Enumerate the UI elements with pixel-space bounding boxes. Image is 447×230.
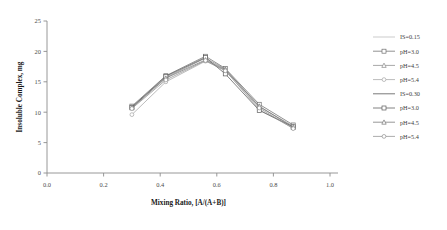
- legend-item-label: pH=5.4: [400, 133, 419, 140]
- axes: 0.00.20.40.60.81.00510152025Mixing Ratio…: [16, 17, 338, 207]
- legend-item-0[interactable]: IS=0.15: [373, 33, 420, 40]
- legend-item-label: pH=3.0: [400, 104, 419, 111]
- y-tick-label: 10: [35, 109, 41, 116]
- series-2: [130, 56, 296, 128]
- series-line: [132, 61, 293, 128]
- x-axis-title: Mixing Ratio, [A/(A+B)]: [151, 199, 226, 207]
- legend-item-4[interactable]: IS=0.30: [373, 90, 420, 97]
- marker-circle: [130, 113, 134, 117]
- x-tick-label: 0.6: [213, 181, 221, 188]
- marker-circle: [382, 135, 386, 139]
- legend-item-label: IS=0.30: [400, 90, 420, 97]
- y-tick-label: 5: [38, 139, 41, 146]
- x-tick-label: 0.4: [156, 181, 165, 188]
- marker-circle: [291, 127, 295, 131]
- marker-circle: [204, 59, 208, 63]
- legend-item-label: pH=3.0: [400, 48, 419, 55]
- y-axis-title: Insoluble Complex, mg: [16, 61, 24, 132]
- legend-item-2[interactable]: pH=4.5: [373, 62, 419, 69]
- series-6: [130, 58, 296, 130]
- legend-item-7[interactable]: pH=5.4: [373, 133, 419, 140]
- marker-square: [382, 49, 386, 53]
- legend-item-label: pH=4.5: [400, 62, 419, 69]
- x-tick-label: 0.2: [100, 181, 108, 188]
- chart-legend: IS=0.15pH=3.0pH=4.5pH=5.4IS=0.30pH=3.0pH…: [373, 33, 420, 139]
- x-tick-label: 1.0: [326, 181, 334, 188]
- series-line: [132, 61, 293, 129]
- y-tick-label: 20: [35, 48, 41, 55]
- marker-circle: [164, 78, 168, 82]
- chart-figure: 0.00.20.40.60.81.00510152025Mixing Ratio…: [0, 0, 447, 230]
- series-3: [130, 59, 295, 130]
- marker-circle: [130, 107, 134, 111]
- y-tick-label: 15: [35, 78, 41, 85]
- plot-area: [130, 54, 296, 130]
- y-tick-label: 25: [35, 17, 41, 24]
- legend-item-label: IS=0.15: [400, 33, 420, 40]
- legend-item-5[interactable]: pH=3.0: [373, 104, 419, 111]
- series-line: [132, 60, 293, 127]
- series-7: [130, 59, 295, 131]
- legend-item-1[interactable]: pH=3.0: [373, 48, 419, 55]
- marker-circle: [257, 106, 261, 110]
- marker-circle: [223, 69, 227, 73]
- legend-item-6[interactable]: pH=4.5: [373, 119, 419, 126]
- legend-item-label: pH=4.5: [400, 119, 419, 126]
- y-tick-label: 0: [38, 169, 41, 176]
- legend-item-label: pH=5.4: [400, 76, 419, 83]
- x-tick-label: 0.8: [269, 181, 277, 188]
- x-tick-label: 0.0: [43, 181, 51, 188]
- series-line: [132, 58, 293, 126]
- marker-circle: [382, 78, 386, 82]
- marker-square: [382, 106, 386, 110]
- legend-item-3[interactable]: pH=5.4: [373, 76, 419, 83]
- series-line: [132, 57, 293, 126]
